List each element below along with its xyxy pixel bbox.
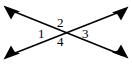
geometry-diagram: 1 2 3 4	[0, 0, 132, 66]
angle-label-2: 2	[57, 16, 64, 29]
angle-label-4: 4	[57, 35, 64, 48]
angle-label-3: 3	[82, 27, 89, 40]
intersecting-lines-svg	[0, 0, 132, 66]
angle-label-1: 1	[38, 27, 45, 40]
